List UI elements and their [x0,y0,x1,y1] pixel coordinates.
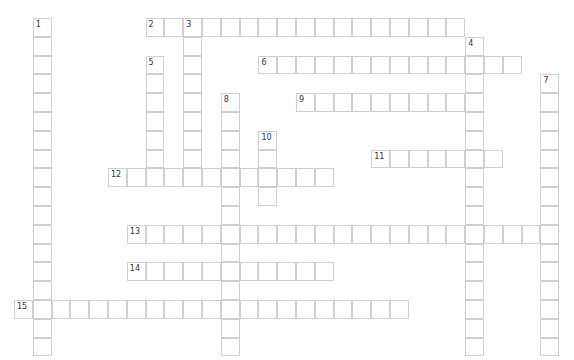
crossword-cell[interactable] [465,244,484,263]
crossword-cell[interactable] [409,93,428,112]
crossword-cell[interactable] [540,112,559,131]
crossword-cell[interactable] [540,225,559,244]
crossword-cell[interactable] [146,93,165,112]
crossword-cell[interactable] [540,281,559,300]
crossword-cell[interactable] [33,319,52,338]
crossword-cell[interactable] [390,93,409,112]
crossword-cell[interactable] [446,93,465,112]
crossword-cell[interactable] [428,150,447,169]
crossword-cell[interactable] [33,206,52,225]
crossword-cell[interactable] [465,319,484,338]
crossword-cell[interactable] [465,262,484,281]
crossword-cell[interactable] [465,150,484,169]
crossword-cell[interactable] [33,187,52,206]
crossword-cell[interactable] [146,150,165,169]
crossword-cell[interactable] [33,338,52,357]
crossword-cell[interactable] [409,150,428,169]
crossword-cell[interactable] [146,74,165,93]
crossword-cell[interactable] [33,225,52,244]
crossword-cell[interactable] [221,319,240,338]
crossword-cell[interactable]: 2 [146,18,165,37]
crossword-cell[interactable] [221,187,240,206]
crossword-cell[interactable] [446,56,465,75]
crossword-cell[interactable]: 7 [540,74,559,93]
crossword-cell[interactable] [371,56,390,75]
crossword-cell[interactable] [315,262,334,281]
crossword-cell[interactable] [334,56,353,75]
crossword-cell[interactable] [183,150,202,169]
crossword-cell[interactable] [33,262,52,281]
crossword-cell[interactable] [540,187,559,206]
crossword-cell[interactable] [540,319,559,338]
crossword-cell[interactable] [277,18,296,37]
crossword-cell[interactable] [540,131,559,150]
crossword-cell[interactable] [390,150,409,169]
crossword-cell[interactable] [221,206,240,225]
crossword-cell[interactable] [503,225,522,244]
crossword-cell[interactable]: 15 [14,300,33,319]
crossword-cell[interactable]: 1 [33,18,52,37]
crossword-cell[interactable]: 11 [371,150,390,169]
crossword-cell[interactable] [277,300,296,319]
crossword-cell[interactable] [202,18,221,37]
crossword-cell[interactable] [33,131,52,150]
crossword-cell[interactable] [183,112,202,131]
crossword-cell[interactable] [33,112,52,131]
crossword-cell[interactable] [33,281,52,300]
crossword-cell[interactable] [202,300,221,319]
crossword-cell[interactable] [334,18,353,37]
crossword-cell[interactable] [240,262,259,281]
crossword-cell[interactable] [146,168,165,187]
crossword-cell[interactable] [540,300,559,319]
crossword-cell[interactable] [315,300,334,319]
crossword-cell[interactable] [221,18,240,37]
crossword-cell[interactable] [484,56,503,75]
crossword-cell[interactable] [221,150,240,169]
crossword-cell[interactable] [183,300,202,319]
crossword-cell[interactable] [146,112,165,131]
crossword-cell[interactable]: 5 [146,56,165,75]
crossword-cell[interactable] [352,56,371,75]
crossword-cell[interactable] [202,225,221,244]
crossword-cell[interactable] [258,225,277,244]
crossword-cell[interactable] [183,168,202,187]
crossword-cell[interactable] [315,18,334,37]
crossword-cell[interactable] [352,18,371,37]
crossword-cell[interactable] [428,93,447,112]
crossword-cell[interactable] [183,56,202,75]
crossword-cell[interactable] [352,225,371,244]
crossword-cell[interactable] [258,18,277,37]
crossword-cell[interactable] [465,300,484,319]
crossword-cell[interactable] [296,300,315,319]
crossword-cell[interactable] [465,206,484,225]
crossword-cell[interactable] [540,262,559,281]
crossword-cell[interactable] [183,131,202,150]
crossword-cell[interactable] [240,18,259,37]
crossword-cell[interactable] [296,18,315,37]
crossword-cell[interactable] [315,168,334,187]
crossword-cell[interactable] [183,93,202,112]
crossword-cell[interactable] [89,300,108,319]
crossword-cell[interactable] [390,300,409,319]
crossword-cell[interactable] [371,300,390,319]
crossword-cell[interactable]: 13 [127,225,146,244]
crossword-cell[interactable] [409,56,428,75]
crossword-cell[interactable] [465,281,484,300]
crossword-cell[interactable] [446,18,465,37]
crossword-cell[interactable] [164,262,183,281]
crossword-cell[interactable] [221,131,240,150]
crossword-cell[interactable] [202,262,221,281]
crossword-cell[interactable] [446,150,465,169]
crossword-cell[interactable] [352,93,371,112]
crossword-cell[interactable] [409,225,428,244]
crossword-cell[interactable] [484,150,503,169]
crossword-cell[interactable] [70,300,89,319]
crossword-cell[interactable] [33,93,52,112]
crossword-cell[interactable] [465,187,484,206]
crossword-cell[interactable] [540,338,559,357]
crossword-cell[interactable] [540,206,559,225]
crossword-cell[interactable] [465,112,484,131]
crossword-cell[interactable] [409,18,428,37]
crossword-cell[interactable] [540,168,559,187]
crossword-cell[interactable] [183,225,202,244]
